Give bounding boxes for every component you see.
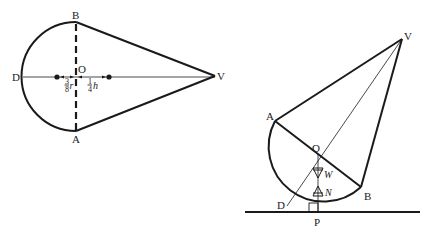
arrow-r-right-icon <box>70 76 74 79</box>
arrow-h-right-icon <box>102 76 106 79</box>
label-right-O: O <box>312 142 320 154</box>
label-left-D: D <box>12 71 20 83</box>
right-hemisphere-arc <box>269 121 361 202</box>
label-left-V: V <box>217 70 225 82</box>
r-variable: r <box>70 80 74 91</box>
h-variable: h <box>93 80 98 91</box>
label-right-B: B <box>364 190 371 202</box>
label-right-V: V <box>404 30 412 42</box>
label-left-O: O <box>78 63 86 75</box>
label-right-A: A <box>266 110 274 122</box>
r-fraction-denominator: 8 <box>65 85 69 94</box>
right-figure: V A O B D P W N <box>245 30 420 228</box>
arrow-h-left-icon <box>78 76 82 79</box>
cone-centroid-dot <box>106 74 111 79</box>
label-left-B: B <box>72 9 79 21</box>
label-normal-N: N <box>324 187 333 198</box>
label-right-P: P <box>314 216 320 228</box>
label-weight-W: W <box>324 169 334 180</box>
right-axis-vd <box>287 39 402 206</box>
arrow-r-left-icon <box>60 76 64 79</box>
right-angle-marker <box>309 203 318 212</box>
diagram-canvas: B A D O V 3 8 r 1 4 h <box>0 0 431 232</box>
left-cone-side-upper <box>76 22 215 76</box>
hemisphere-centroid-dot <box>54 74 59 79</box>
label-right-D: D <box>277 199 285 211</box>
label-left-A: A <box>72 133 80 145</box>
h-fraction-denominator: 4 <box>88 85 92 94</box>
left-figure: B A D O V 3 8 r 1 4 h <box>12 9 225 145</box>
